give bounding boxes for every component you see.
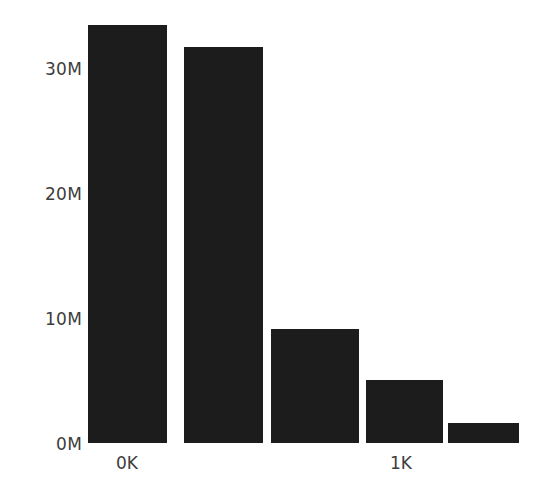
plot-area [0,0,554,502]
bar-3[interactable] [271,329,359,443]
bar-4[interactable] [366,380,443,443]
x-tick-label-1k: 1K [390,455,412,472]
bar-2[interactable] [184,47,263,443]
bar-5[interactable] [448,423,519,443]
x-tick-label-0k: 0K [116,455,138,472]
bar-chart: 30M 20M 10M 0M 0K 1K [0,0,554,502]
bar-1[interactable] [88,25,167,443]
